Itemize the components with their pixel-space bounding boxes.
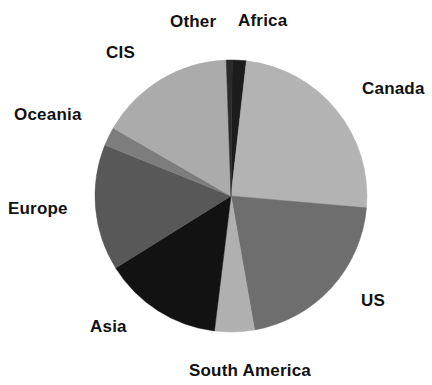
pie-chart-figure: Other Africa CIS Canada Oceania Europe U… — [0, 0, 432, 385]
pie-label-asia: Asia — [90, 318, 127, 335]
pie-label-oceania: Oceania — [14, 106, 82, 123]
pie-label-us: US — [361, 292, 385, 309]
pie-slice-canada[interactable] — [231, 61, 367, 208]
pie-label-south-america: South America — [189, 362, 311, 379]
pie-label-canada: Canada — [362, 80, 425, 97]
pie-label-other: Other — [170, 13, 216, 30]
pie-label-cis: CIS — [106, 44, 135, 61]
pie-slice-group — [95, 60, 367, 332]
pie-label-europe: Europe — [8, 200, 68, 217]
pie-label-africa: Africa — [238, 12, 287, 29]
pie-chart-canvas — [0, 0, 432, 385]
